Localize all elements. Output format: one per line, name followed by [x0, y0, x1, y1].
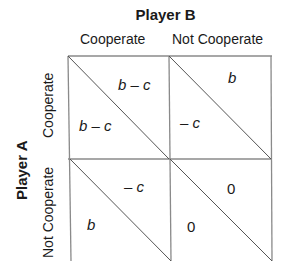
payoff-a-coop-coop: b – c — [79, 117, 112, 134]
payoff-b-coop-coop: b – c — [118, 76, 151, 93]
diagonal-ncoop-coop — [70, 159, 171, 261]
diagonal-ncoop-ncoop — [170, 159, 272, 261]
diagonal-coop-coop — [68, 56, 169, 159]
payoff-grid — [0, 0, 283, 261]
payoff-b-coop-ncoop: b — [228, 69, 236, 86]
payoff-b-ncoop-ncoop: 0 — [227, 180, 235, 197]
payoff-a-ncoop-ncoop: 0 — [187, 218, 195, 235]
payoff-b-ncoop-coop: – c — [124, 178, 144, 195]
payoff-a-coop-ncoop: – c — [180, 114, 200, 131]
diagonal-coop-ncoop — [169, 56, 271, 159]
payoff-a-ncoop-coop: b — [87, 216, 95, 233]
